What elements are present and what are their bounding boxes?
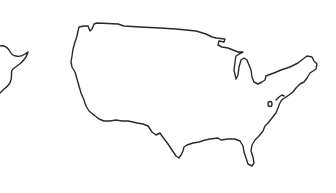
left-landmass-outline (0, 46, 28, 93)
usa-outline (71, 23, 317, 166)
east-coast-small-lake (268, 102, 272, 107)
map-outlines (0, 0, 336, 193)
map-canvas: Horn of Africa (partial) Contiguous Unit… (0, 0, 336, 193)
